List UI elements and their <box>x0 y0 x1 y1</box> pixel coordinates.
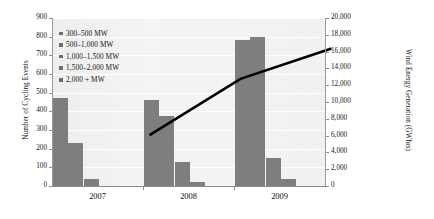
legend-label: 300–500 MW <box>66 29 108 38</box>
legend-label: 500–1,000 MW <box>66 40 113 49</box>
y-axis-left-tick-mark <box>49 37 52 38</box>
y-axis-right-tick-mark <box>326 102 329 103</box>
legend-swatch-icon <box>59 32 63 36</box>
y-axis-right-tick-mark <box>326 186 329 187</box>
legend-item: 1,000–1,500 MW <box>59 51 119 61</box>
legend-swatch-icon <box>59 78 63 82</box>
legend: 300–500 MW500–1,000 MW1,000–1,500 MW1,50… <box>59 28 119 84</box>
legend-item: 500–1,000 MW <box>59 40 119 50</box>
bar <box>68 143 83 186</box>
y-axis-left-tick-mark <box>49 186 52 187</box>
y-axis-right-tick-label: 4,000 <box>331 147 377 155</box>
chart-container: Number of Cycling Events Wind Energy Gen… <box>0 0 434 219</box>
y-axis-right-tick-label: 0 <box>331 181 377 189</box>
y-axis-right-tick-mark <box>326 136 329 137</box>
y-axis-left-tick-label: 300 <box>3 125 47 133</box>
y-axis-right-tick-mark <box>326 35 329 36</box>
y-axis-right-tick-label: 18,000 <box>331 30 377 38</box>
y-axis-right-tick-label: 6,000 <box>331 131 377 139</box>
y-axis-left-tick-label: 600 <box>3 69 47 77</box>
x-axis-separator <box>143 186 144 190</box>
y-axis-right-tick-mark <box>326 119 329 120</box>
y-axis-left-tick-label: 900 <box>3 13 47 21</box>
x-axis-tick-label: 2008 <box>144 192 234 201</box>
y-axis-left-tick-label: 500 <box>3 88 47 96</box>
legend-item: 2,000 + MW <box>59 74 119 84</box>
y-axis-left-tick-label: 100 <box>3 162 47 170</box>
y-axis-left-tick-mark <box>49 111 52 112</box>
y-axis-right-tick-mark <box>326 52 329 53</box>
x-axis-line <box>52 186 326 187</box>
y-axis-right-tick-label: 10,000 <box>331 97 377 105</box>
y-axis-left-tick-label: 700 <box>3 50 47 58</box>
y-axis-right-tick-mark <box>326 68 329 69</box>
x-axis-tick-label: 2009 <box>235 192 325 201</box>
y-axis-left-tick-mark <box>49 149 52 150</box>
y-axis-left-tick-label: 400 <box>3 106 47 114</box>
y-axis-right-tick-mark <box>326 152 329 153</box>
trend-line-path <box>150 49 332 136</box>
bar <box>53 98 68 186</box>
y-axis-left-line <box>52 18 53 187</box>
y-axis-left-tick-label: 200 <box>3 144 47 152</box>
y-axis-right-tick-label: 14,000 <box>331 63 377 71</box>
y-axis-right-tick-mark <box>326 85 329 86</box>
y-axis-left-tick-mark <box>49 74 52 75</box>
y-axis-left-tick-mark <box>49 55 52 56</box>
y-axis-right-title: Wind Energy Generation (GWhrs) <box>404 30 412 170</box>
y-axis-right-tick-label: 20,000 <box>331 13 377 21</box>
legend-swatch-icon <box>59 55 63 59</box>
y-axis-left-tick-mark <box>49 93 52 94</box>
y-axis-left-tick-mark <box>49 18 52 19</box>
legend-swatch-icon <box>59 66 63 70</box>
legend-swatch-icon <box>59 43 63 47</box>
y-axis-right-tick-label: 16,000 <box>331 47 377 55</box>
y-axis-right-tick-label: 2,000 <box>331 164 377 172</box>
legend-item: 300–500 MW <box>59 28 119 38</box>
x-axis-tick-label: 2007 <box>53 192 143 201</box>
bar <box>84 179 99 186</box>
y-axis-left-tick-mark <box>49 130 52 131</box>
y-axis-right-tick-label: 12,000 <box>331 80 377 88</box>
y-axis-left-tick-mark <box>49 167 52 168</box>
y-axis-right-tick-mark <box>326 169 329 170</box>
legend-item: 1,500–2,000 MW <box>59 63 119 73</box>
x-axis-separator <box>234 186 235 190</box>
y-axis-right-tick-mark <box>326 18 329 19</box>
legend-label: 2,000 + MW <box>66 75 105 84</box>
legend-label: 1,500–2,000 MW <box>66 63 119 72</box>
y-axis-left-tick-label: 800 <box>3 32 47 40</box>
legend-label: 1,000–1,500 MW <box>66 52 119 61</box>
y-axis-right-tick-label: 8,000 <box>331 114 377 122</box>
y-axis-left-tick-label: 0 <box>3 181 47 189</box>
